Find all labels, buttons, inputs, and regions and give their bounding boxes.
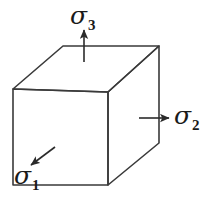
sigma3-label: σ3 (70, 3, 95, 28)
cube-right-face (108, 46, 159, 185)
sigma3-subscript: 3 (88, 17, 96, 33)
sigma1-symbol: σ (14, 161, 31, 190)
sigma2-symbol: σ (174, 101, 191, 130)
sigma3-symbol: σ (70, 1, 87, 30)
principal-stress-diagram: σ3 σ2 σ1 (0, 0, 208, 201)
cube-top-face (13, 46, 159, 92)
sigma1-subscript: 1 (32, 177, 40, 193)
sigma1-label: σ1 (14, 163, 39, 188)
sigma2-label: σ2 (174, 103, 199, 128)
sigma2-subscript: 2 (192, 117, 200, 133)
